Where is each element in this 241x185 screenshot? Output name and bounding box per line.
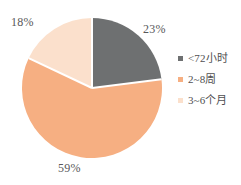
pie-data-label-2to8weeks: 59%: [58, 162, 81, 174]
legend-item-3to6months[interactable]: 3~6个月: [178, 90, 240, 111]
legend-square-icon: [178, 98, 183, 103]
legend-item-label: <72小时: [188, 53, 228, 64]
legend-item-lt72h[interactable]: <72小时: [178, 48, 240, 69]
legend-item-label: 3~6个月: [188, 95, 227, 106]
legend-square-icon: [178, 56, 183, 61]
chart-legend: <72小时 2~8周 3~6个月: [178, 48, 240, 111]
legend-item-label: 2~8周: [188, 74, 216, 85]
pie-data-label-3to6months: 18%: [11, 16, 34, 28]
pie-plot-area: 23% 59% 18%: [0, 0, 180, 185]
pie-data-label-lt72h: 23%: [143, 23, 166, 35]
legend-square-icon: [178, 77, 183, 82]
legend-item-2to8weeks[interactable]: 2~8周: [178, 69, 240, 90]
pie-chart-figure: 23% 59% 18% <72小时 2~8周 3~6个月: [0, 0, 241, 185]
